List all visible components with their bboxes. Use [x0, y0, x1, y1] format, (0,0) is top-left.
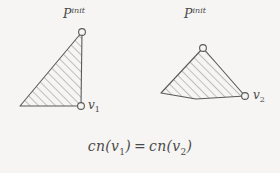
right-vertex-pinit-marker [200, 45, 207, 52]
caption-equation: cn(v1)=cn(v2) [0, 139, 280, 157]
left-pinit-label: Pinit [63, 7, 85, 21]
figure-container: Pinit Pinit v1 v2 cn(v1)=cn(v2) [0, 0, 280, 173]
caption-lhs-var: v [111, 138, 119, 154]
right-vertex-v2-marker [242, 93, 249, 100]
v2-base: v [253, 88, 260, 102]
caption-operator: = [131, 138, 149, 154]
v2-subscript: 2 [260, 95, 265, 104]
caption-lhs-fn: cn [88, 138, 105, 154]
left-vertex-pinit-marker [79, 29, 86, 36]
caption-rhs-close: ) [187, 138, 193, 154]
caption-rhs-fn: cn [149, 138, 166, 154]
left-figure-group [20, 29, 85, 110]
left-vertex-v1-marker [78, 103, 85, 110]
right-pinit-superscript: init [192, 6, 205, 15]
v1-base: v [88, 98, 95, 112]
vertex-v2-label: v2 [253, 89, 265, 104]
left-pinit-superscript: init [71, 6, 84, 15]
vertex-v1-label: v1 [88, 99, 100, 114]
right-quadrilateral-hatch-fill [161, 48, 245, 99]
right-figure-group [161, 45, 248, 100]
right-pinit-label: Pinit [184, 7, 206, 21]
v1-subscript: 1 [95, 105, 100, 114]
